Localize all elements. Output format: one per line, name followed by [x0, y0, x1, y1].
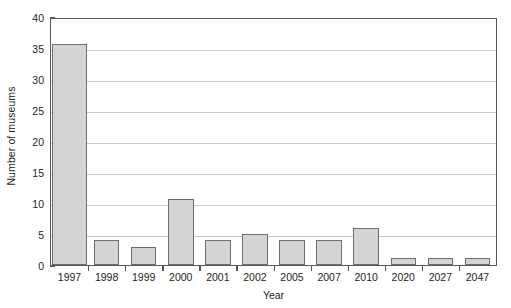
x-axis-tick-mark	[236, 266, 237, 271]
bar	[242, 234, 268, 265]
bar	[205, 240, 231, 265]
x-axis-tick-label: 2001	[206, 271, 229, 283]
bar	[465, 258, 491, 265]
x-axis-tick-label: 2047	[466, 271, 489, 283]
bar-chart-figure: Number of museums 0510152025303540 19971…	[0, 0, 511, 308]
y-axis-tick-label: 10	[32, 198, 44, 210]
bar	[94, 240, 120, 265]
y-axis-tick-label: 20	[32, 136, 44, 148]
y-axis-tick-label: 0	[38, 260, 44, 272]
bar-series-layer	[51, 19, 496, 265]
x-axis-tick-label: 2010	[355, 271, 378, 283]
bar	[131, 247, 157, 265]
x-axis-title: Year	[51, 289, 496, 301]
x-axis-tick-mark	[422, 266, 423, 271]
x-axis-tick-mark	[311, 266, 312, 271]
y-axis-tick-label: 25	[32, 105, 44, 117]
x-axis-tick-mark	[459, 266, 460, 271]
y-axis-tick-label: 40	[32, 12, 44, 24]
x-axis-tick-mark	[348, 266, 349, 271]
y-axis-tick-labels: 0510152025303540	[20, 13, 47, 267]
x-axis-tick-label: 2000	[169, 271, 192, 283]
x-axis-tick-mark	[125, 266, 126, 271]
y-axis-tick-label: 30	[32, 74, 44, 86]
x-axis-tick-mark	[199, 266, 200, 271]
x-axis-tick-label: 2027	[429, 271, 452, 283]
x-axis-tick-label: 1997	[58, 271, 81, 283]
bar	[391, 258, 417, 265]
y-axis-tick-label: 35	[32, 43, 44, 55]
bar	[316, 240, 342, 265]
bar	[428, 258, 454, 265]
y-axis-tick-label: 5	[38, 229, 44, 241]
x-axis-tick-labels: 1997199819992000200120022005200720102020…	[51, 271, 496, 287]
x-axis-tick-mark	[88, 266, 89, 271]
x-axis-tick-mark	[162, 266, 163, 271]
y-axis-title: Number of museums	[0, 0, 22, 272]
bar	[353, 228, 379, 265]
bar	[279, 240, 305, 265]
bar	[52, 44, 87, 265]
x-axis-tick-label: 2002	[243, 271, 266, 283]
x-axis-tick-label: 1999	[132, 271, 155, 283]
x-axis-tick-mark	[274, 266, 275, 271]
x-axis-tick-label: 1998	[95, 271, 118, 283]
x-axis-tick-label: 2007	[317, 271, 340, 283]
x-axis-tick-label: 2020	[392, 271, 415, 283]
x-axis-tick-label: 2005	[280, 271, 303, 283]
bar	[168, 199, 194, 265]
y-axis-tick-label: 15	[32, 167, 44, 179]
x-axis-tick-mark	[385, 266, 386, 271]
y-axis-title-label: Number of museums	[5, 86, 17, 185]
